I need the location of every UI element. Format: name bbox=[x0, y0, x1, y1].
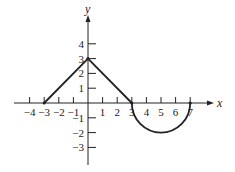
function-graph: xy−4−3−2−112345674321−1−2−3 bbox=[0, 0, 235, 172]
y-tick-label: 4 bbox=[79, 38, 85, 50]
y-tick-label: 2 bbox=[79, 67, 85, 79]
tick-labels: xy−4−3−2−112345674321−1−2−3 bbox=[24, 2, 223, 153]
x-tick-label: 7 bbox=[187, 106, 193, 118]
x-axis-label: x bbox=[216, 96, 223, 110]
y-tick-label: −3 bbox=[72, 141, 84, 153]
x-tick-label: 1 bbox=[100, 106, 106, 118]
graph-path bbox=[44, 59, 190, 133]
endpoint-dot bbox=[189, 101, 192, 104]
y-tick-label: 1 bbox=[79, 82, 85, 94]
y-tick-label: 3 bbox=[79, 53, 85, 65]
x-tick-label: −2 bbox=[53, 106, 65, 118]
axes bbox=[14, 15, 214, 165]
x-tick-label: 4 bbox=[144, 106, 150, 118]
x-tick-label: −3 bbox=[38, 106, 50, 118]
x-tick-label: 2 bbox=[114, 106, 120, 118]
endpoint-dot bbox=[130, 101, 133, 104]
x-axis-arrow-icon bbox=[207, 101, 214, 106]
function-curve bbox=[43, 57, 192, 133]
y-axis-arrow-icon bbox=[86, 15, 91, 22]
x-tick-label: 5 bbox=[158, 106, 164, 118]
endpoint-dot bbox=[43, 101, 46, 104]
y-tick-label: −2 bbox=[72, 127, 84, 139]
x-tick-label: 3 bbox=[129, 106, 135, 118]
x-tick-label: −4 bbox=[24, 106, 36, 118]
y-tick-label: −1 bbox=[72, 112, 84, 124]
y-axis-label: y bbox=[84, 2, 91, 16]
endpoint-dot bbox=[86, 57, 89, 60]
x-tick-label: 6 bbox=[173, 106, 179, 118]
